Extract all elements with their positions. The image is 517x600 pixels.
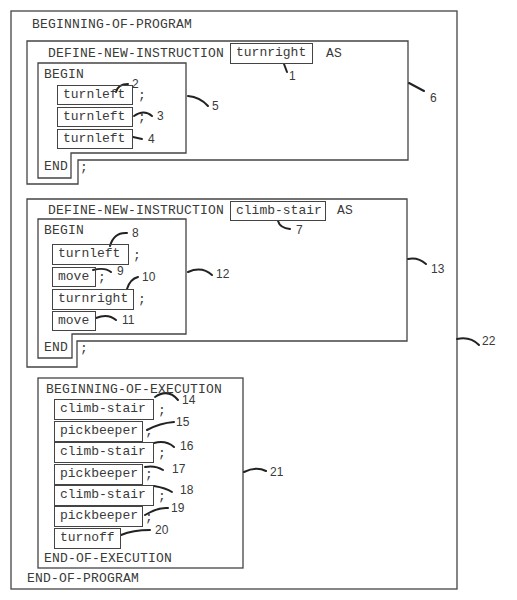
step-move-1[interactable]: move <box>52 267 96 287</box>
exec-step-climb-stair-1[interactable]: climb-stair <box>54 399 154 420</box>
semicolon: ; <box>138 110 146 125</box>
semicolon: ; <box>145 510 153 525</box>
leader-line-12 <box>188 270 212 275</box>
ref-4: 4 <box>148 133 155 146</box>
leader-line-7 <box>278 221 290 229</box>
ref-11: 11 <box>122 314 134 327</box>
execution-end-label: END-OF-EXECUTION <box>44 551 172 566</box>
as-label-turnright: AS <box>326 46 342 61</box>
semicolon: ; <box>138 292 146 307</box>
leader-line-4 <box>133 137 142 139</box>
leader-line-1 <box>284 64 287 72</box>
ref-2: 2 <box>132 78 139 91</box>
ref-10: 10 <box>142 271 155 284</box>
ref-7: 7 <box>296 224 303 237</box>
define-label-turnright: DEFINE-NEW-INSTRUCTION <box>48 46 224 61</box>
ref-19: 19 <box>171 502 184 515</box>
step-turnleft[interactable]: turnleft <box>52 244 129 265</box>
leader-line-10 <box>127 277 138 289</box>
ref-6: 6 <box>430 92 437 105</box>
end-label-climb-stair: END <box>44 340 68 355</box>
program-begin-label: BEGINNING-OF-PROGRAM <box>32 17 192 32</box>
leader-line-21 <box>244 469 266 472</box>
leader-line-6 <box>409 83 424 91</box>
ref-12: 12 <box>216 268 229 281</box>
exec-step-pickbeeper-2[interactable]: pickbeeper <box>54 464 143 485</box>
ref-3: 3 <box>157 110 164 123</box>
leader-line-5 <box>188 96 208 106</box>
ref-13: 13 <box>431 263 444 276</box>
leader-line-22 <box>457 338 479 345</box>
step-turnleft-3[interactable]: turnleft <box>57 129 133 149</box>
step-turnright[interactable]: turnright <box>52 289 134 310</box>
execution-begin-label: BEGINNING-OF-EXECUTION <box>46 382 222 397</box>
exec-step-climb-stair-3[interactable]: climb-stair <box>54 485 154 506</box>
ref-18: 18 <box>180 484 193 497</box>
end-semicolon: ; <box>80 341 88 356</box>
karel-program-diagram: BEGINNING-OF-PROGRAM END-OF-PROGRAM 22 D… <box>0 0 517 600</box>
ref-17: 17 <box>172 463 185 476</box>
semicolon: ; <box>138 88 146 103</box>
semicolon: ; <box>158 446 166 461</box>
ref-21: 21 <box>270 466 283 479</box>
semicolon: ; <box>158 403 166 418</box>
ref-14: 14 <box>182 394 195 407</box>
ref-8: 8 <box>132 227 139 240</box>
semicolon: ; <box>145 424 153 439</box>
ref-20: 20 <box>155 524 168 537</box>
ref-9: 9 <box>117 265 124 278</box>
instruction-name-climb-stair[interactable]: climb-stair <box>230 201 326 221</box>
ref-22: 22 <box>482 335 495 348</box>
step-move-2[interactable]: move <box>52 311 96 331</box>
end-label-turnright: END <box>44 159 68 174</box>
semicolon: ; <box>98 270 106 285</box>
begin-label-turnright: BEGIN <box>44 67 84 82</box>
exec-step-pickbeeper-3[interactable]: pickbeeper <box>54 506 143 527</box>
semicolon: ; <box>158 489 166 504</box>
program-end-label: END-OF-PROGRAM <box>27 571 139 586</box>
step-turnleft-2[interactable]: turnleft <box>57 107 133 127</box>
instruction-name-turnright[interactable]: turnright <box>230 43 313 64</box>
step-turnleft-1[interactable]: turnleft <box>57 85 133 105</box>
ref-16: 16 <box>180 440 193 453</box>
leader-line-20 <box>121 530 150 535</box>
as-label-climb-stair: AS <box>337 203 353 218</box>
begin-label-climb-stair: BEGIN <box>44 223 84 238</box>
ref-15: 15 <box>176 416 189 429</box>
define-label-climb-stair: DEFINE-NEW-INSTRUCTION <box>48 203 224 218</box>
exec-step-turnoff[interactable]: turnoff <box>54 528 121 549</box>
semicolon: ; <box>133 248 141 263</box>
exec-step-climb-stair-2[interactable]: climb-stair <box>54 442 154 463</box>
leader-line-13 <box>408 259 426 264</box>
ref-5: 5 <box>212 100 219 113</box>
semicolon: ; <box>145 467 153 482</box>
end-semicolon: ; <box>80 160 88 175</box>
exec-step-pickbeeper-1[interactable]: pickbeeper <box>54 421 143 442</box>
leader-line-11 <box>96 316 116 320</box>
ref-1: 1 <box>289 70 296 83</box>
